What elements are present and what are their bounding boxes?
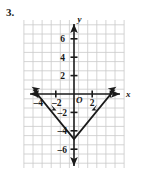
coordinate-graph: x y O 6 4 2 –2 –4 –6 –4 –2 2 (0, 0, 148, 176)
y-tick-minus-4: –4 (57, 126, 68, 136)
origin-label: O (76, 95, 83, 105)
coordinate-plane-svg: x y O 6 4 2 –2 –4 –6 –4 –2 2 (0, 0, 148, 176)
x-axis (30, 90, 120, 98)
x-tick-minus-4: –4 (33, 98, 44, 108)
y-tick-label-2: 2 (60, 71, 65, 81)
exercise-figure: 3. (0, 0, 148, 176)
x-tick-minus-2: –2 (51, 98, 62, 108)
x-tick-label-2: 2 (90, 98, 95, 108)
y-tick-minus-2: –2 (57, 108, 68, 118)
axis-names: x y (77, 14, 132, 99)
x-axis-label: x (125, 89, 131, 99)
y-tick-minus-6: –6 (57, 145, 68, 155)
y-tick-label-6: 6 (60, 34, 65, 44)
y-tick-label-4: 4 (60, 53, 65, 63)
y-axis-label: y (77, 14, 83, 24)
